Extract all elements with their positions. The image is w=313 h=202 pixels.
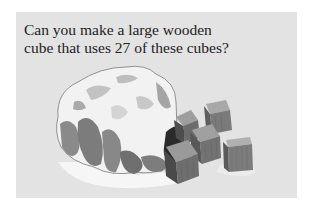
bag-of-cubes-illustration [16,12,297,198]
wooden-cube-icon [223,137,253,172]
question-panel: Can you make a large wooden cube that us… [16,12,297,198]
